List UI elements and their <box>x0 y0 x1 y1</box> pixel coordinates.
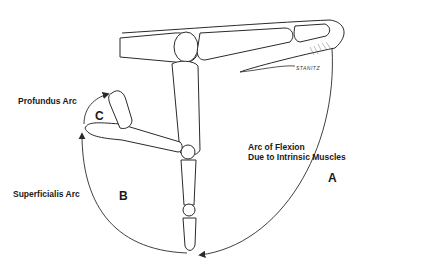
intrinsic-arc-label-line2: Due to Intrinsic Muscles <box>248 153 346 163</box>
region-b-label: B <box>119 190 128 204</box>
profundus-arc-label: Profundus Arc <box>18 97 77 107</box>
superficialis-arc-label: Superficialis Arc <box>13 190 80 200</box>
region-c-label: C <box>95 110 104 124</box>
region-a-label: A <box>328 172 337 186</box>
artist-signature: STANITZ <box>296 65 320 71</box>
finger-flexion-diagram <box>0 0 424 264</box>
superficialis-arc <box>82 134 187 253</box>
vertical-finger <box>172 61 200 250</box>
